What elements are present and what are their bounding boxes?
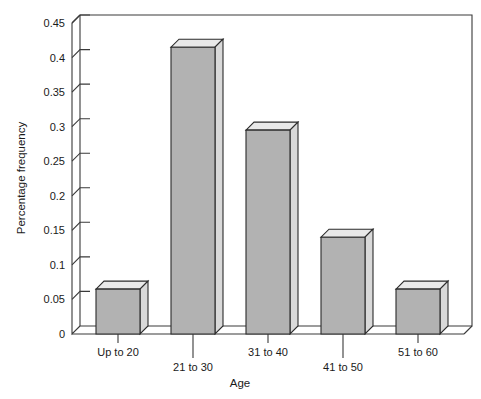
bar-top-face bbox=[96, 281, 148, 289]
y-tick-0.2 bbox=[72, 188, 90, 196]
y-tick-label-0.25: 0.25 bbox=[44, 155, 65, 167]
y-axis-ticks bbox=[72, 15, 90, 299]
bar-side-face bbox=[215, 39, 223, 334]
bar-21-to-30[interactable] bbox=[171, 39, 223, 334]
y-tick-0.15 bbox=[72, 222, 90, 230]
x-axis-title: Age bbox=[230, 377, 250, 389]
bar-top-face bbox=[321, 229, 373, 237]
bar-side-face bbox=[140, 281, 148, 334]
bar-front-face bbox=[171, 47, 215, 334]
bar-front-face bbox=[396, 289, 440, 334]
y-tick-label-0.1: 0.1 bbox=[50, 259, 65, 271]
bar-51-to-60[interactable] bbox=[396, 281, 448, 334]
bar-top-face bbox=[396, 281, 448, 289]
left-wall-front-edge bbox=[72, 23, 80, 334]
bar-side-face bbox=[290, 122, 298, 334]
x-tick-label-21-to-30: 21 to 30 bbox=[173, 361, 213, 373]
bar-top-face bbox=[171, 39, 223, 47]
y-tick-label-0.45: 0.45 bbox=[44, 17, 65, 29]
y-tick-labels: 0.45 0.4 0.35 0.3 0.25 0.2 0.15 0.1 0.05… bbox=[44, 17, 65, 340]
x-tick-labels: Up to 20 21 to 30 31 to 40 41 to 50 51 t… bbox=[97, 346, 438, 373]
bar-top-face bbox=[246, 122, 298, 130]
bar-front-face bbox=[96, 289, 140, 334]
y-axis-title: Percentage frequency bbox=[15, 121, 27, 234]
y-tick-0.4 bbox=[72, 50, 90, 58]
bar-31-to-40[interactable] bbox=[246, 122, 298, 334]
y-tick-label-0.4: 0.4 bbox=[50, 52, 65, 64]
x-tick-label-41-to-50: 41 to 50 bbox=[323, 361, 363, 373]
bar-chart: 0.45 0.4 0.35 0.3 0.25 0.2 0.15 0.1 0.05… bbox=[0, 0, 481, 399]
bar-up-to-20[interactable] bbox=[96, 281, 148, 334]
bars-group bbox=[96, 39, 448, 334]
y-tick-0.1 bbox=[72, 257, 90, 265]
y-tick-label-0.35: 0.35 bbox=[44, 86, 65, 98]
x-tick-label-31-to-40: 31 to 40 bbox=[248, 346, 288, 358]
y-tick-0.05 bbox=[72, 291, 90, 299]
y-tick-0.45 bbox=[72, 15, 90, 23]
bar-side-face bbox=[440, 281, 448, 334]
bar-side-face bbox=[365, 229, 373, 334]
x-tick-label-up-to-20: Up to 20 bbox=[97, 346, 139, 358]
y-tick-0.3 bbox=[72, 119, 90, 127]
chart-canvas: 0.45 0.4 0.35 0.3 0.25 0.2 0.15 0.1 0.05… bbox=[0, 0, 481, 399]
y-tick-0.25 bbox=[72, 153, 90, 161]
y-tick-label-0.15: 0.15 bbox=[44, 224, 65, 236]
y-tick-label-0.3: 0.3 bbox=[50, 121, 65, 133]
x-tick-label-51-to-60: 51 to 60 bbox=[398, 346, 438, 358]
bar-front-face bbox=[321, 237, 365, 334]
bar-front-face bbox=[246, 130, 290, 334]
y-tick-label-0.2: 0.2 bbox=[50, 190, 65, 202]
bar-41-to-50[interactable] bbox=[321, 229, 373, 334]
y-tick-label-0: 0 bbox=[59, 328, 65, 340]
y-tick-0.35 bbox=[72, 84, 90, 92]
y-tick-label-0.05: 0.05 bbox=[44, 293, 65, 305]
